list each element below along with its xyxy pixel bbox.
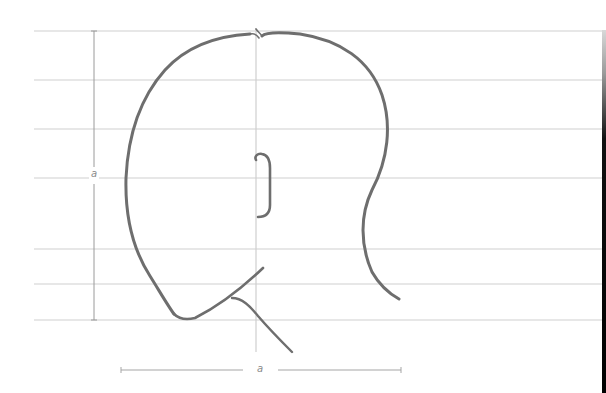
horizontal-guidelines — [34, 31, 604, 320]
chin-jaw-line — [174, 268, 263, 319]
head-outline — [126, 29, 399, 352]
ear-shape — [255, 154, 270, 217]
skull-top-front-curve — [262, 33, 399, 299]
page-edge-shadow — [602, 30, 606, 393]
neck-line — [232, 298, 292, 352]
vertical-measure-label: a — [89, 169, 99, 179]
skull-back-curve — [126, 34, 250, 314]
horizontal-measure-label: a — [255, 364, 265, 374]
head-construction-diagram — [0, 0, 606, 393]
